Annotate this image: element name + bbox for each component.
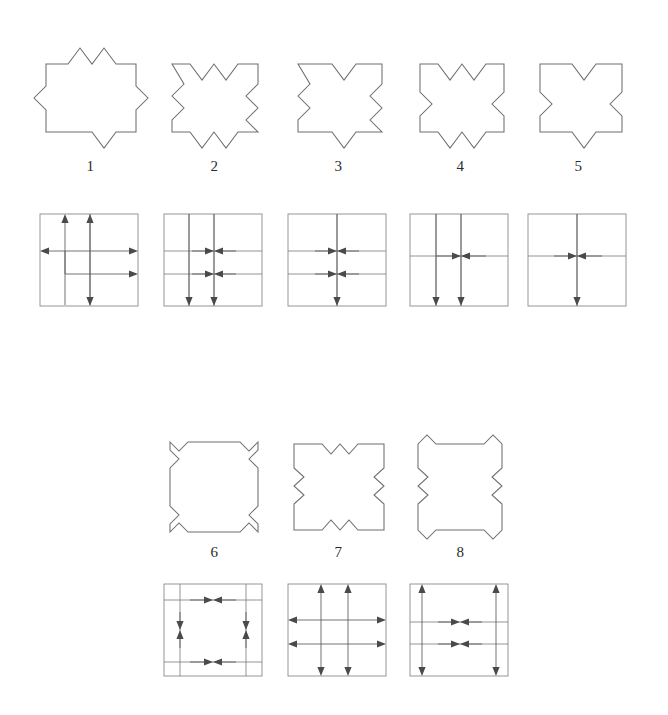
zigzag-square-5 [516,24,641,154]
shape-label-1: 1 [28,158,153,175]
arrow-diagram-2 [152,204,277,314]
arrow-diagram-7 [276,574,401,684]
shape-label-3: 3 [276,158,401,175]
arrow-diagram-8 [398,574,523,684]
zigzag-square-7 [276,420,401,550]
figure-container: 1 2 3 4 5 [0,0,668,715]
shape-label-4: 4 [398,158,523,175]
zigzag-square-4 [398,24,523,154]
shape-label-5: 5 [516,158,641,175]
arrow-diagram-5 [516,204,641,314]
shape-label-6: 6 [152,544,277,561]
zigzag-square-2 [152,24,277,154]
arrow-diagram-1 [28,204,153,314]
shape-label-7: 7 [276,544,401,561]
zigzag-square-3 [276,24,401,154]
arrow-diagram-6 [152,574,277,684]
zigzag-square-8 [398,420,523,550]
zigzag-square-1 [28,24,153,154]
shape-label-2: 2 [152,158,277,175]
arrow-diagram-4 [398,204,523,314]
zigzag-square-6 [152,420,277,550]
shape-label-8: 8 [398,544,523,561]
arrow-diagram-3 [276,204,401,314]
